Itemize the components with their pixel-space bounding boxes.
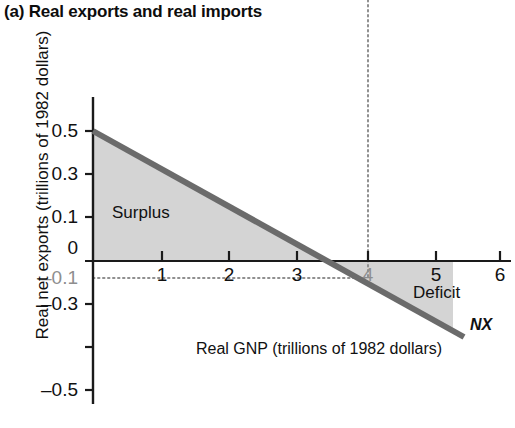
x-axis-title: Real GNP (trillions of 1982 dollars) <box>196 340 442 358</box>
figure-panel: (a) Real exports and real imports <box>0 0 515 428</box>
deficit-label: Deficit <box>413 283 460 303</box>
x-tick-label-3: 3 <box>277 264 317 286</box>
x-tick-label-4: 4 <box>348 264 388 286</box>
x-tick-label-6: 6 <box>480 264 515 286</box>
surplus-label: Surplus <box>112 203 170 223</box>
y-tick-label-neg-0-5: –0.5 <box>18 379 78 401</box>
x-tick-label-2: 2 <box>209 264 249 286</box>
x-tick-label-1: 1 <box>142 264 182 286</box>
nx-curve-label: NX <box>470 316 492 334</box>
y-axis-title: Real net exports (trillions of 1982 doll… <box>33 20 53 350</box>
